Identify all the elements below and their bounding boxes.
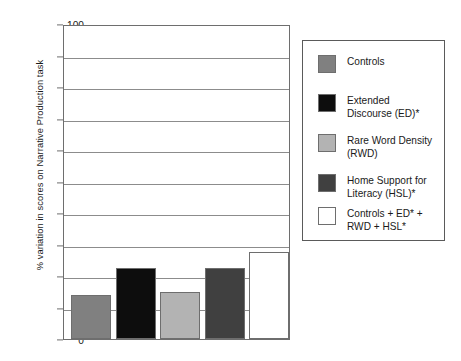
legend-swatch-icon [318,94,336,112]
legend-item[interactable]: Rare Word Density (RWD) [318,134,432,160]
bar-0 [71,295,111,339]
legend-item[interactable]: Home Support for Literacy (HSL)* [318,174,427,200]
bar-4 [249,252,289,339]
bar-group [64,26,289,339]
legend-item[interactable]: Controls + ED* + RWD + HSL* [318,207,423,233]
bar-3 [205,268,245,339]
legend-swatch-icon [318,55,336,73]
legend-label: Controls + ED* + RWD + HSL* [347,207,423,233]
legend-swatch-icon [318,134,336,152]
legend-label: Controls [347,55,385,69]
legend-label: Extended Discourse (ED)* [347,94,419,120]
bar-1 [116,268,156,339]
legend-item[interactable]: Controls [318,55,385,73]
bar-2 [160,292,200,339]
legend-item[interactable]: Extended Discourse (ED)* [318,94,419,120]
legend-swatch-icon [318,174,336,192]
plot-area [63,25,290,340]
legend-swatch-icon [318,207,336,225]
bar-chart-figure: % variation in scores on Narrative Produ… [0,0,461,361]
legend-label: Home Support for Literacy (HSL)* [347,174,427,200]
chart-legend: ControlsExtended Discourse (ED)*Rare Wor… [302,40,445,241]
legend-label: Rare Word Density (RWD) [347,134,432,160]
